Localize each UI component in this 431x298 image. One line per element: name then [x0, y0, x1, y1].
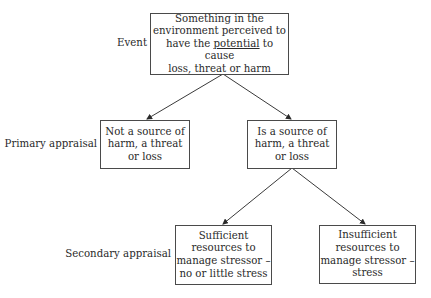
- node-is-source-text: Is a source of harm, a threat or loss: [255, 126, 330, 164]
- node-is-source: Is a source of harm, a threat or loss: [247, 120, 337, 169]
- node-sufficient-text: Sufficient resources to manage stressor …: [176, 230, 270, 280]
- event-line-2: environment perceived to: [151, 25, 288, 38]
- edge-is-source-to-insufficient: [292, 168, 365, 224]
- event-line-3: have the potential to cause: [151, 38, 288, 63]
- event-line-4: loss, threat or harm: [151, 63, 288, 76]
- node-sufficient: Sufficient resources to manage stressor …: [175, 225, 272, 285]
- node-not-source: Not a source of harm, a threat or loss: [100, 120, 190, 169]
- edge-event-to-not-source: [147, 74, 223, 119]
- node-insufficient: Insufficient resources to manage stresso…: [319, 225, 416, 284]
- node-not-source-text: Not a source of harm, a threat or loss: [105, 126, 184, 164]
- edge-is-source-to-sufficient: [223, 168, 292, 224]
- event-line-3-pre: have the: [166, 38, 214, 49]
- level-label-primary-appraisal: Primary appraisal: [5, 138, 97, 150]
- level-label-event: Event: [117, 37, 147, 49]
- emphasis-potential: potential: [214, 38, 260, 49]
- edge-event-to-is-source: [223, 74, 291, 119]
- level-label-secondary-appraisal: Secondary appraisal: [65, 248, 171, 260]
- node-event: Something in the environment perceived t…: [150, 13, 289, 75]
- event-line-1: Something in the: [151, 13, 288, 26]
- node-insufficient-text: Insufficient resources to manage stresso…: [320, 229, 414, 279]
